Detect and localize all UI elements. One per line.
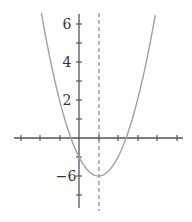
- y-label-2: 2: [63, 92, 72, 108]
- y-label-4: 4: [63, 54, 72, 70]
- y-label-6: 6: [63, 16, 72, 32]
- y-label-neg: −6: [56, 168, 77, 184]
- parabola-chart: 6 4 2 −6: [0, 0, 192, 222]
- parabola-curve: [41, 13, 155, 176]
